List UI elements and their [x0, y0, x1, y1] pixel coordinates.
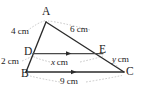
guide-bc-left	[28, 76, 60, 83]
measure-label-db: 2 cm	[1, 57, 19, 66]
measure-label-ad: 4 cm	[11, 27, 29, 36]
vertex-label-B: B	[21, 68, 29, 80]
parallel-marker-bc	[71, 70, 77, 75]
geometry-figure: A B C D E 4 cm 6 cm 2 cm x cm y cm 9 cm	[0, 0, 142, 98]
vertex-label-C: C	[126, 66, 134, 78]
measure-label-ec: y cm	[112, 55, 129, 64]
measure-de-variable: x	[51, 57, 55, 67]
measure-label-bc: 9 cm	[60, 77, 78, 86]
vertex-label-A: A	[42, 6, 50, 18]
vertex-label-E: E	[99, 44, 106, 56]
measure-ec-unit: cm	[118, 54, 129, 64]
measure-label-ae: 6 cm	[70, 25, 88, 34]
vertex-label-D: D	[24, 46, 32, 58]
guide-de-left	[33, 56, 51, 62]
measure-ec-variable: y	[112, 54, 116, 64]
measure-de-unit: cm	[57, 57, 68, 67]
parallel-marker-de	[66, 51, 72, 56]
guide-bc-right	[86, 76, 122, 83]
measure-label-de: x cm	[51, 58, 68, 67]
